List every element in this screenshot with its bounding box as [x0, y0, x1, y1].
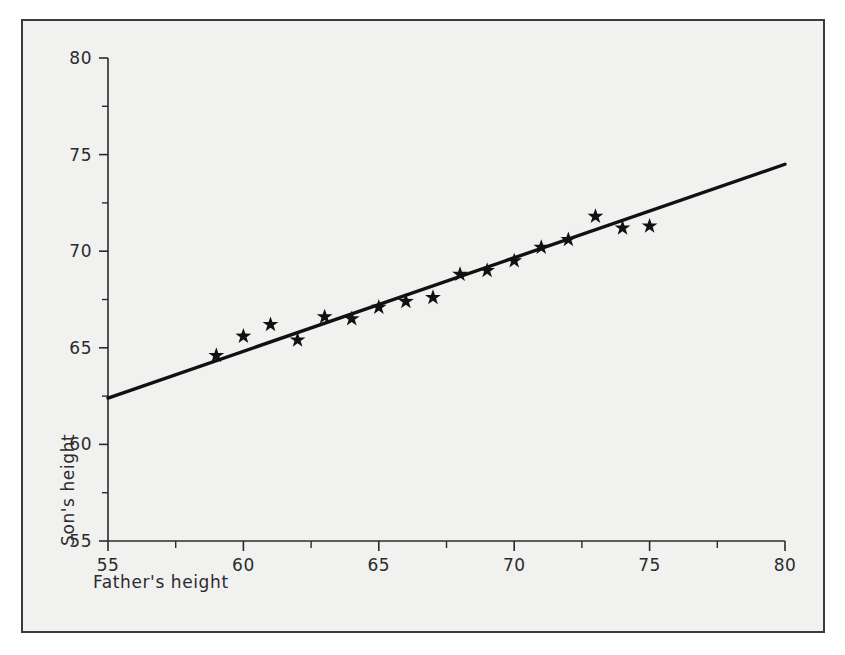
y-axis-title: Son's height: [58, 434, 78, 546]
y-tick-label: 75: [69, 145, 92, 165]
axes-group: [108, 58, 785, 541]
x-tick-label: 60: [232, 555, 255, 575]
y-axis-ticks: [99, 58, 108, 541]
figure-container: 556065707580 556065707580 Father's heigh…: [0, 0, 845, 655]
data-point-star: [263, 316, 279, 331]
y-tick-label: 80: [69, 48, 92, 68]
data-point-star: [642, 218, 658, 233]
scatter-plot: 556065707580 556065707580 Father's heigh…: [0, 0, 845, 655]
data-point-star: [236, 328, 252, 343]
x-axis-title: Father's height: [93, 572, 229, 592]
y-tick-label: 65: [69, 338, 92, 358]
x-tick-label: 65: [367, 555, 390, 575]
regression-line: [108, 164, 785, 398]
x-tick-label: 70: [503, 555, 526, 575]
y-tick-label: 70: [69, 241, 92, 261]
data-point-star: [425, 289, 441, 304]
x-tick-label: 80: [774, 555, 797, 575]
data-point-star: [588, 208, 604, 223]
x-axis-ticks: [108, 541, 785, 551]
x-tick-label: 75: [638, 555, 661, 575]
